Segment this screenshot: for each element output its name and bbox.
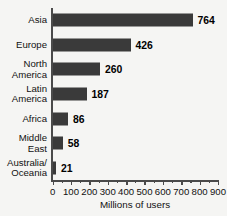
bar (53, 112, 69, 125)
x-tick-label: 700 (173, 186, 189, 197)
bar-value-label: 260 (105, 64, 122, 75)
category-label: Australia/ Oceania (0, 157, 47, 178)
x-tick-major (218, 180, 219, 185)
x-tick-major (108, 180, 109, 185)
bar-value-label: 21 (61, 162, 73, 173)
x-tick-minor (172, 180, 173, 183)
category-label: Middle East (0, 133, 47, 154)
x-tick-minor (135, 180, 136, 183)
bar-chart: Asia764Europe426North America260Latin Am… (0, 0, 227, 216)
x-tick-major (53, 180, 54, 185)
bar (53, 14, 193, 27)
bar-value-label: 426 (135, 39, 152, 50)
bar-value-label: 58 (68, 138, 80, 149)
bar-row: Asia764 (0, 8, 227, 33)
x-tick-minor (80, 180, 81, 183)
category-label: Europe (0, 40, 47, 50)
bar (53, 63, 101, 76)
x-tick-minor (209, 180, 210, 183)
x-tick-major (163, 180, 164, 185)
x-tick-minor (62, 180, 63, 183)
x-tick-major (144, 180, 145, 185)
bar-row: Latin America187 (0, 82, 227, 107)
category-label: Latin America (0, 84, 47, 105)
bar-row: North America260 (0, 57, 227, 82)
x-tick-major (181, 180, 182, 185)
x-tick-major (89, 180, 90, 185)
bar-value-label: 187 (91, 89, 108, 100)
x-tick-label: 100 (63, 186, 79, 197)
x-tick-label: 600 (155, 186, 171, 197)
plot-area: Asia764Europe426North America260Latin Am… (0, 0, 227, 216)
x-tick-major (126, 180, 127, 185)
bar-value-label: 86 (73, 113, 85, 124)
category-label: Asia (0, 15, 47, 25)
x-tick-minor (117, 180, 118, 183)
bar-row: Middle East58 (0, 131, 227, 156)
category-label: North America (0, 59, 47, 80)
bar (53, 161, 57, 174)
bar (53, 88, 87, 101)
x-tick-label: 500 (136, 186, 152, 197)
bar-rows: Asia764Europe426North America260Latin Am… (0, 8, 227, 180)
x-tick-major (71, 180, 72, 185)
x-tick-label: 800 (192, 186, 208, 197)
category-label: Africa (0, 113, 47, 123)
x-tick-label: 300 (100, 186, 116, 197)
x-tick-label: 200 (81, 186, 97, 197)
x-tick-major (200, 180, 201, 185)
x-tick-label: 400 (118, 186, 134, 197)
x-tick-minor (99, 180, 100, 183)
x-axis-title: Millions of users (51, 199, 219, 210)
bar-row: Africa86 (0, 106, 227, 131)
x-tick-minor (154, 180, 155, 183)
x-tick-label: 0 (50, 186, 55, 197)
x-tick-minor (190, 180, 191, 183)
bar (53, 38, 131, 51)
x-tick-label: 900 (210, 186, 226, 197)
bar-value-label: 764 (198, 15, 215, 26)
bar-row: Europe426 (0, 33, 227, 58)
bar (53, 137, 64, 150)
bar-row: Australia/ Oceania21 (0, 156, 227, 181)
